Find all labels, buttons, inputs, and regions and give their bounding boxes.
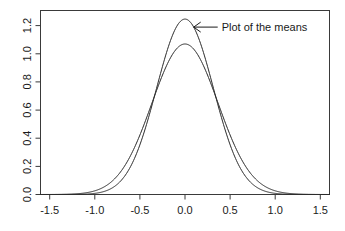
- y-tick-label: 0.8: [21, 74, 33, 89]
- y-tick-label: 0.4: [21, 131, 33, 146]
- y-tick-label: 0.0: [21, 187, 33, 202]
- density-plot-svg: 0.0 0.2 0.4 0.6 0.8 1.0 1.2 -1.5 -1.0 -0…: [0, 0, 345, 231]
- y-tick-label: 1.2: [21, 18, 33, 33]
- x-tick-label: -1.0: [85, 204, 104, 216]
- x-tick-label: 1.5: [313, 204, 328, 216]
- x-tick-label: 0.5: [222, 204, 237, 216]
- y-tick-label: 0.6: [21, 102, 33, 117]
- x-tick-label: 0.0: [177, 204, 192, 216]
- x-tick-label: -1.5: [40, 204, 59, 216]
- y-tick-label: 1.0: [21, 46, 33, 61]
- x-tick-label: 1.0: [268, 204, 283, 216]
- annotation-label: Plot of the means: [222, 21, 308, 33]
- y-tick-label: 0.2: [21, 159, 33, 174]
- x-tick-label: -0.5: [130, 204, 149, 216]
- chart-figure: 0.0 0.2 0.4 0.6 0.8 1.0 1.2 -1.5 -1.0 -0…: [0, 0, 345, 231]
